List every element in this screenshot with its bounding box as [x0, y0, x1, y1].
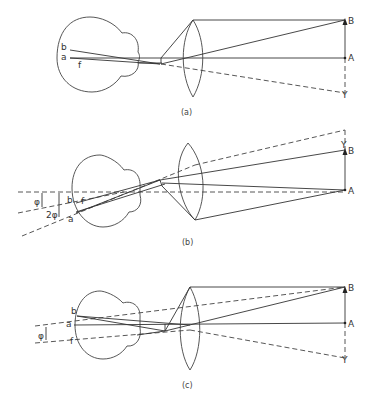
- panel-b: B A Y b a f φ 2φ (b): [18, 130, 355, 247]
- label-a: a: [66, 319, 72, 329]
- label-f: f: [70, 336, 74, 346]
- arrowhead-B: [343, 18, 348, 25]
- label-A: A: [348, 186, 355, 196]
- panel-a: B A Y b a f (a): [57, 16, 355, 117]
- dashed-to-Y: [190, 330, 345, 358]
- optics-diagram: B A Y b a f (a): [0, 0, 373, 401]
- label-A: A: [348, 53, 355, 63]
- eye-outline: [72, 155, 141, 227]
- ray-b: [70, 50, 160, 64]
- label-phi: φ: [38, 331, 44, 341]
- label-b: b: [61, 42, 67, 52]
- point-A: [344, 189, 347, 192]
- caption-a: (a): [181, 108, 192, 117]
- ray-b: [77, 316, 165, 331]
- label-a: a: [68, 214, 74, 224]
- caption-b: (b): [182, 238, 193, 247]
- ray-bottom-to-A: [195, 190, 345, 220]
- point-A: [344, 57, 347, 60]
- ray-to-lens-top: [161, 20, 193, 58]
- lens: [178, 143, 203, 220]
- ray-c: [137, 331, 165, 335]
- panel-c: B A Y b a f φ (c): [35, 283, 355, 390]
- lens: [183, 20, 203, 97]
- ray-to-A: [162, 183, 345, 190]
- label-b: b: [71, 306, 77, 316]
- label-phi: φ: [34, 197, 40, 207]
- ray-to-B: [160, 150, 345, 180]
- label-f: f: [78, 60, 82, 70]
- dashed-phi-line: [35, 330, 190, 343]
- label-B: B: [348, 16, 354, 26]
- label-a: a: [61, 52, 67, 62]
- ray-center-to-B: [165, 287, 345, 331]
- label-Y: Y: [341, 90, 348, 100]
- dashed-axis-to-B: [35, 287, 345, 326]
- ray-to-lens-bottom: [162, 186, 195, 220]
- label-Y: Y: [341, 355, 348, 365]
- label-B: B: [348, 146, 354, 156]
- label-2phi: 2φ: [46, 210, 58, 220]
- dashed-to-Y: [195, 130, 345, 165]
- ray-b: [76, 180, 160, 203]
- label-Y: Y: [340, 140, 347, 150]
- ray-a2: [76, 184, 165, 212]
- label-A: A: [348, 319, 355, 329]
- label-B: B: [348, 283, 354, 293]
- optical-axis: [74, 323, 345, 325]
- label-b: b: [67, 195, 73, 205]
- ray-center-to-B: [161, 20, 345, 64]
- caption-c: (c): [182, 381, 193, 390]
- point-A: [344, 322, 347, 325]
